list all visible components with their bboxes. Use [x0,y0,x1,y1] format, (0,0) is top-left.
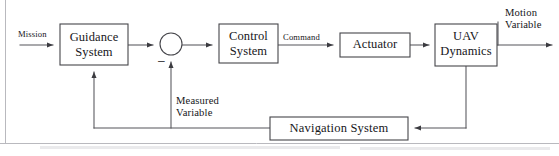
block-label-guidance-line2: System [60,45,128,60]
minus-sign: – [158,55,165,67]
signal-label-motion-variable-line1: Motion [505,7,542,19]
signal-label-motion-variable-line2: Variable [505,19,542,31]
scan-artifact-right [360,147,550,150]
block-label-control-line1: Control [219,29,278,44]
signal-label-command: Command [283,33,320,43]
signal-label-measured-variable-line2: Variable [176,107,219,119]
signal-label-measured-variable: Measured Variable [176,95,219,119]
signal-label-motion-variable: Motion Variable [505,7,542,31]
block-label-uav-line2: Dynamics [435,44,497,59]
block-label-actuator: Actuator [340,37,410,51]
block-label-uav-dynamics: UAV Dynamics [435,29,497,58]
block-diagram-canvas: Guidance System Control System Actuator … [0,0,559,156]
block-label-guidance-system: Guidance System [60,30,128,59]
scan-artifact-left [40,146,340,149]
block-label-guidance-line1: Guidance [60,30,128,45]
signal-label-mission: Mission [18,30,47,40]
block-label-control-system: Control System [219,29,278,58]
block-label-uav-line1: UAV [435,29,497,44]
block-label-control-line2: System [219,44,278,59]
summing-junction[interactable] [160,33,182,55]
block-label-navigation-system: Navigation System [270,121,408,135]
signal-label-measured-variable-line1: Measured [176,95,219,107]
